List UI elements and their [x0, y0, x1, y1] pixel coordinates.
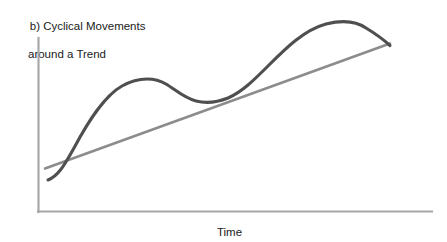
- x-axis-label: Time: [0, 226, 447, 238]
- cyclical-line-series: [48, 22, 390, 180]
- chart-screenshot: b) Cyclical Movements around a Trend Tim…: [0, 0, 447, 242]
- x-axis-label-text: Time: [217, 226, 242, 238]
- plot-area: [0, 0, 447, 242]
- trend-line-series: [45, 44, 390, 169]
